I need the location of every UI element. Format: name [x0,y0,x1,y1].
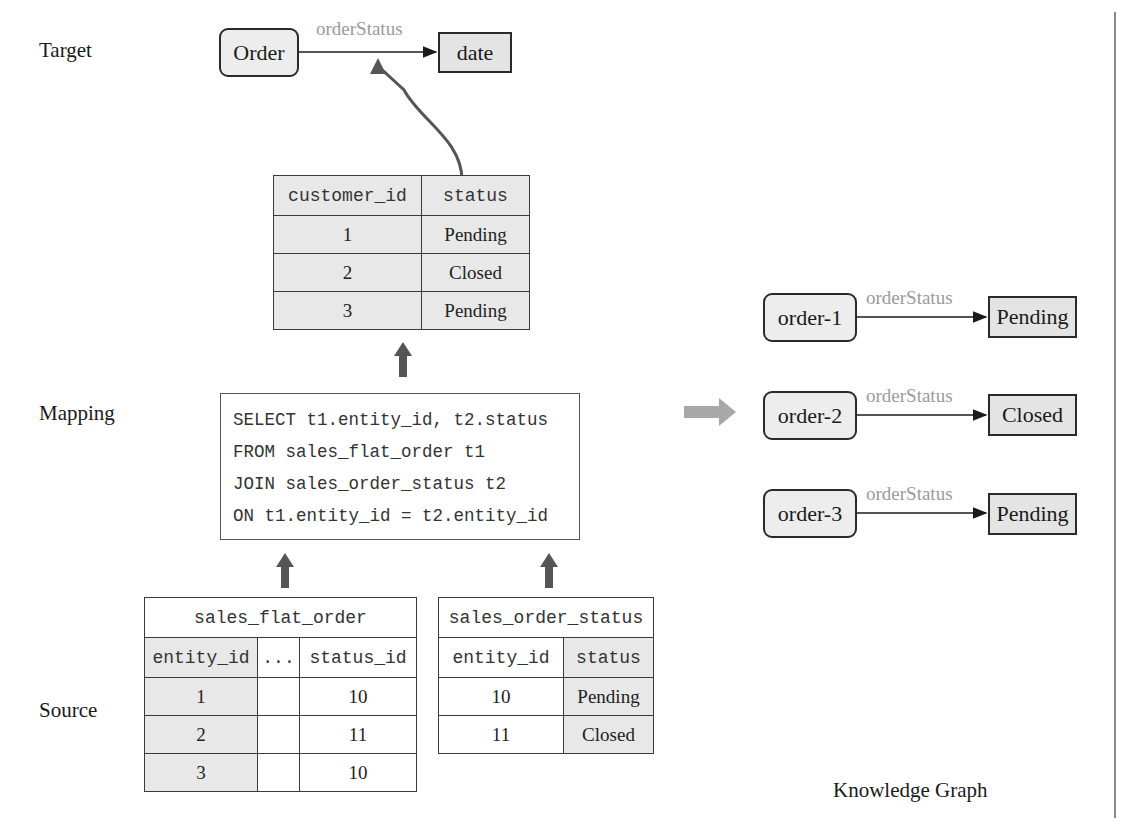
sos-header-entity-id: entity_id [439,638,564,678]
sales-order-status-header-row: entity_id status [439,638,654,678]
kg-subject-label: order-2 [778,403,842,429]
table-row: 1 Pending [274,216,530,254]
table-row: 3 10 [145,754,417,792]
table-row: 1 10 [145,678,417,716]
result-table-header: customer_id status [274,176,530,216]
right-arrow-to-knowledge-graph [684,398,736,426]
table-row: 11 Closed [439,716,654,754]
curved-mapping-arrow [378,66,462,180]
result-header-status: status [422,176,530,216]
result-cell: Closed [422,254,530,292]
sfo-cell: 10 [300,678,417,716]
sos-cell: Closed [564,716,654,754]
result-cell: Pending [422,216,530,254]
result-cell: 1 [274,216,422,254]
kg-subject-label: order-1 [778,305,842,331]
table-row: 3 Pending [274,292,530,330]
sql-line-on: ON t1.entity_id = t2.entity_id [233,504,567,536]
vertical-divider [1114,12,1116,818]
kg-subject-node-2: order-2 [763,391,857,440]
sql-line-from: FROM sales_flat_order t1 [233,440,567,472]
sos-cell: 11 [439,716,564,754]
sfo-cell [258,754,300,792]
sales-order-status-table: sales_order_status entity_id status 10 P… [438,597,654,754]
sql-line-join: JOIN sales_order_status t2 [233,472,567,504]
curved-arrow-head [370,58,386,74]
sfo-header-ellipsis: ... [258,638,300,678]
kg-subject-label: order-3 [778,501,842,527]
sfo-cell [258,716,300,754]
kg-object-node-3: Pending [988,493,1077,535]
sfo-cell: 2 [145,716,258,754]
kg-subject-node-1: order-1 [763,293,857,342]
sfo-cell [258,678,300,716]
sales-flat-order-table: sales_flat_order entity_id ... status_id… [144,597,417,792]
sales-order-status-title: sales_order_status [439,598,654,638]
sfo-header-entity-id: entity_id [145,638,258,678]
table-row: 2 Closed [274,254,530,292]
sales-flat-order-title: sales_flat_order [145,598,417,638]
kg-predicate-label: orderStatus [866,483,953,505]
sfo-cell: 11 [300,716,417,754]
kg-subject-node-3: order-3 [763,489,857,538]
result-cell: 2 [274,254,422,292]
sos-header-status: status [564,638,654,678]
mapping-sql-box: SELECT t1.entity_id, t2.status FROM sale… [220,393,580,540]
result-cell: Pending [422,292,530,330]
result-cell: 3 [274,292,422,330]
up-arrow-sql-to-result [394,342,412,377]
sfo-cell: 1 [145,678,258,716]
sql-line-select: SELECT t1.entity_id, t2.status [233,408,567,440]
table-row: 2 11 [145,716,417,754]
sfo-header-status-id: status_id [300,638,417,678]
sfo-cell: 10 [300,754,417,792]
up-arrow-flat-order-to-sql [276,553,294,588]
sales-flat-order-header-row: entity_id ... status_id [145,638,417,678]
kg-object-node-2: Closed [988,394,1077,436]
sales-flat-order-title-row: sales_flat_order [145,598,417,638]
up-arrow-order-status-to-sql [540,553,558,588]
sos-cell: Pending [564,678,654,716]
table-row: 10 Pending [439,678,654,716]
result-header-customer-id: customer_id [274,176,422,216]
sales-order-status-title-row: sales_order_status [439,598,654,638]
kg-object-node-1: Pending [988,296,1077,338]
kg-object-label: Closed [1002,402,1063,428]
result-table: customer_id status 1 Pending 2 Closed 3 … [273,175,530,330]
sos-cell: 10 [439,678,564,716]
kg-object-label: Pending [996,501,1068,527]
sfo-cell: 3 [145,754,258,792]
kg-predicate-label: orderStatus [866,385,953,407]
kg-object-label: Pending [996,304,1068,330]
kg-predicate-label: orderStatus [866,287,953,309]
